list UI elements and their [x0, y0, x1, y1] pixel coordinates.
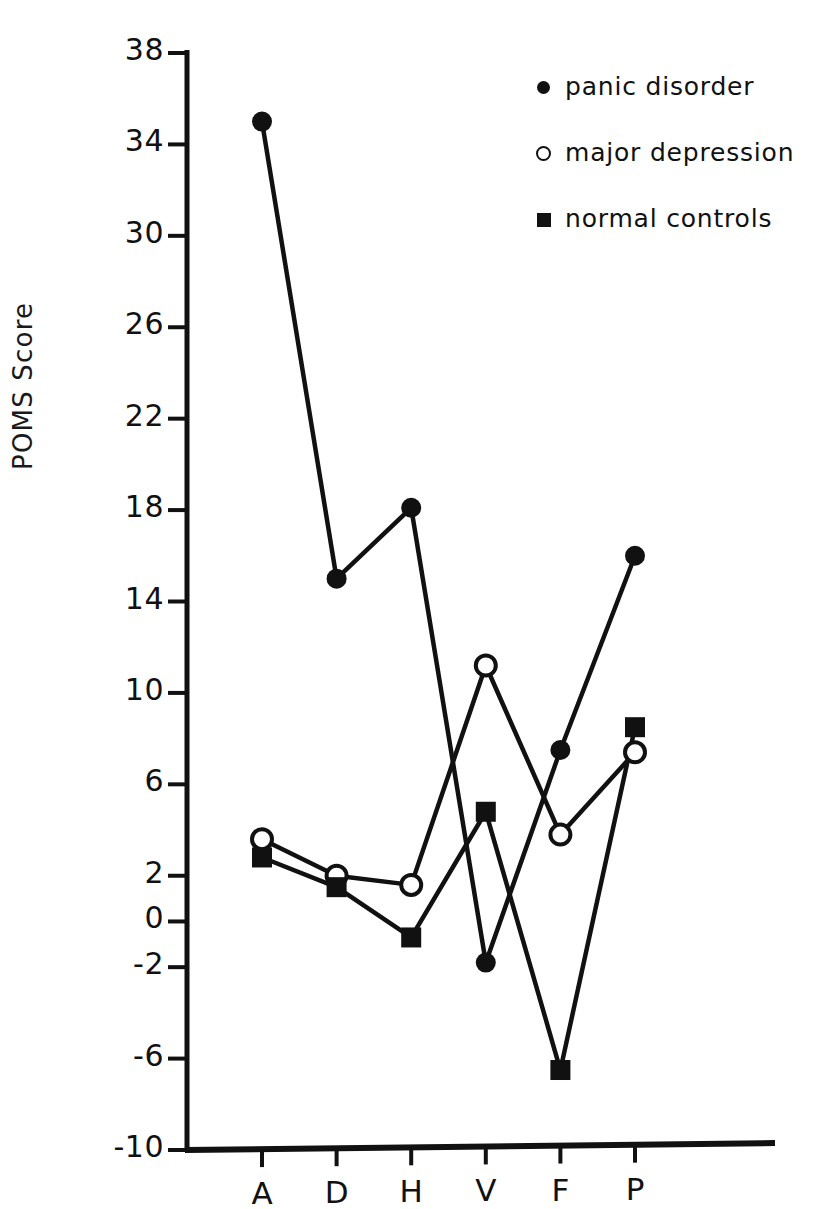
y-tick-label: 38: [60, 32, 164, 67]
x-tick-label: V: [456, 1172, 516, 1208]
data-point-marker: [550, 740, 570, 760]
y-tick-label: 2: [60, 855, 164, 890]
x-tick-label: D: [307, 1174, 367, 1209]
data-point-marker: [550, 1060, 570, 1080]
legend-label: major depression: [565, 138, 794, 167]
data-point-marker: [252, 847, 272, 867]
y-axis-label: POMS Score: [8, 250, 38, 470]
y-tick-label: 30: [60, 215, 164, 250]
y-tick-label: 10: [60, 672, 164, 707]
data-point-marker: [252, 829, 272, 849]
data-point-marker: [476, 953, 496, 973]
data-point-marker: [252, 112, 272, 132]
legend-marker-filled-circle-icon: [537, 81, 550, 94]
legend-marker-open-circle-icon: [536, 146, 551, 161]
y-tick-label: 0: [60, 900, 164, 935]
y-tick-label: -2: [60, 946, 164, 981]
data-point-marker: [550, 825, 570, 845]
y-tick-label: 34: [60, 123, 164, 158]
legend-label: normal controls: [565, 204, 772, 233]
data-point-marker: [327, 569, 347, 589]
y-tick-label: 18: [60, 489, 164, 524]
poms-score-line-chart: POMS Score 3834302622181410620-2-6-10 AD…: [0, 0, 837, 1209]
data-point-marker: [401, 927, 421, 947]
series-lines: [262, 122, 635, 1070]
series-line: [262, 122, 635, 963]
data-point-marker: [401, 875, 421, 895]
y-tick-label: 22: [60, 398, 164, 433]
data-point-marker: [476, 802, 496, 822]
x-axis-line: [185, 1143, 775, 1150]
data-point-marker: [625, 742, 645, 762]
x-tick-label: A: [232, 1175, 292, 1209]
legend-label: panic disorder: [565, 72, 754, 101]
data-point-marker: [401, 498, 421, 518]
x-tick-label: P: [605, 1171, 665, 1207]
data-point-marker: [327, 877, 347, 897]
data-point-marker: [625, 546, 645, 566]
y-tick-label: 6: [60, 763, 164, 798]
y-tick-marks: [168, 53, 187, 1150]
y-tick-label: 14: [60, 581, 164, 616]
data-point-marker: [476, 655, 496, 675]
y-tick-label: -10: [60, 1129, 164, 1164]
y-tick-label: 26: [60, 306, 164, 341]
x-tick-label: H: [381, 1173, 441, 1209]
legend-marker-filled-square-icon: [537, 213, 551, 227]
data-point-marker: [625, 717, 645, 737]
y-tick-label: -6: [60, 1038, 164, 1073]
x-tick-label: F: [530, 1172, 590, 1208]
series-markers: [252, 112, 645, 1080]
